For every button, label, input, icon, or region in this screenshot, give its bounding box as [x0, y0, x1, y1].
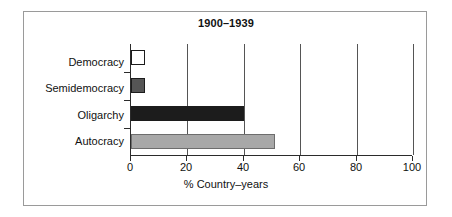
bar-semidemocracy[interactable] [131, 78, 145, 93]
gridline-60 [300, 44, 301, 155]
gridline-80 [357, 44, 358, 155]
bar-democracy[interactable] [131, 50, 145, 65]
bar-autocracy[interactable] [131, 134, 275, 149]
bar-oligarchy[interactable] [131, 106, 244, 121]
x-tick-label-60: 60 [293, 161, 305, 173]
x-tick-label-40: 40 [237, 161, 249, 173]
chart-title: 1900–1939 [0, 17, 452, 29]
x-axis-title: % Country–years [0, 178, 452, 190]
y-category-label-semidemocracy: Semidemocracy [0, 82, 124, 94]
x-tick-label-80: 80 [350, 161, 362, 173]
x-tick-label-100: 100 [403, 161, 421, 173]
y-category-label-autocracy: Autocracy [0, 135, 124, 147]
plot-area [130, 44, 412, 156]
y-category-label-oligarchy: Oligarchy [0, 109, 124, 121]
x-tick-label-20: 20 [180, 161, 192, 173]
gridline-100 [413, 44, 414, 155]
x-tick-label-0: 0 [127, 161, 133, 173]
y-category-label-democracy: Democracy [0, 56, 124, 68]
